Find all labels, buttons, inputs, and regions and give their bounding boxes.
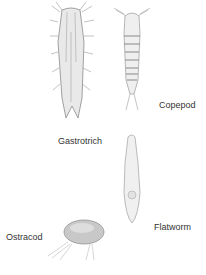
gastrotrich-illustration: [50, 2, 100, 124]
ostracod-illustration: [46, 218, 110, 260]
copepod-illustration: [112, 2, 152, 117]
flatworm-illustration: [118, 133, 148, 225]
gastrotrich-label: Gastrotrich: [58, 136, 102, 146]
flatworm-label: Flatworm: [154, 222, 191, 232]
ostracod-label: Ostracod: [6, 232, 43, 242]
copepod-label: Copepod: [159, 100, 196, 110]
